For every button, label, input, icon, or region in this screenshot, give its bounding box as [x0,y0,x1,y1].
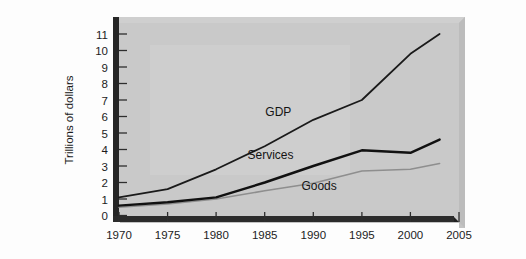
y-tick-label: 8 [102,78,108,90]
x-tick-label: 1980 [203,229,229,241]
series-label-goods: Goods [301,179,336,193]
y-tick-label: 0 [102,210,108,222]
x-tick-label: 2005 [446,229,472,241]
series-label-services: Services [248,148,294,162]
y-tick-label: 5 [102,128,108,140]
y-tick-label: 11 [96,29,108,41]
x-tick-label: 1995 [349,229,375,241]
y-axis-title: Trillions of dollars [63,75,75,164]
x-tick-labels: 1970 1975 1980 1985 1990 1995 2000 2005 [106,229,472,241]
y-tick-label: 1 [102,194,108,206]
x-axis-line [113,216,454,222]
y-tick-label: 6 [102,111,108,123]
series-label-gdp: GDP [265,105,291,119]
y-tick-label: 9 [102,62,108,74]
y-tick-labels: 0 1 2 3 4 5 6 7 8 9 10 11 [95,29,108,223]
y-tick-label: 7 [102,95,108,107]
y-tick-label: 10 [95,45,108,57]
y-tick-label: 3 [102,161,108,173]
y-axis-line [113,17,119,217]
panel-top-bevel [113,17,465,23]
panel-right-bevel [459,17,465,228]
x-tick-label: 1985 [252,229,278,241]
y-tick-label: 4 [102,144,109,156]
figure-container: 0 1 2 3 4 5 6 7 8 9 10 11 1970 1975 1980… [0,0,526,259]
x-tick-label: 1990 [301,229,327,241]
x-tick-label: 1975 [155,229,181,241]
gdp-services-goods-line-chart: 0 1 2 3 4 5 6 7 8 9 10 11 1970 1975 1980… [0,0,526,259]
x-tick-label: 2000 [398,229,424,241]
x-tick-label: 1970 [106,229,132,241]
y-tick-label: 2 [102,177,108,189]
